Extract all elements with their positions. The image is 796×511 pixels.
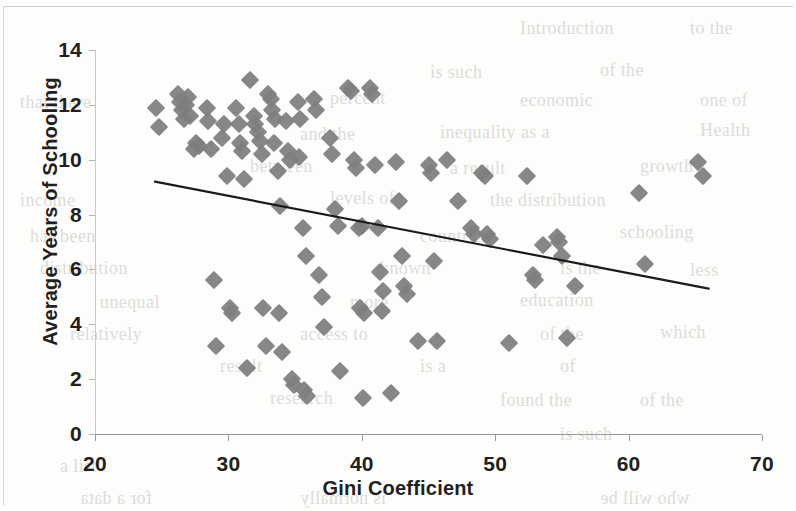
y-axis-title: Average Years of Schooling — [39, 12, 62, 412]
data-point — [369, 219, 387, 237]
x-axis-line — [95, 434, 762, 435]
data-point — [371, 263, 389, 281]
data-point — [373, 301, 391, 319]
data-point — [235, 170, 253, 188]
x-tick-mark — [362, 435, 363, 441]
x-tick-label: 20 — [83, 452, 107, 476]
data-point — [273, 343, 291, 361]
x-tick-label: 30 — [217, 452, 241, 476]
data-point — [323, 145, 341, 163]
data-point — [297, 247, 315, 265]
data-point — [227, 98, 245, 116]
data-point — [289, 93, 307, 111]
data-point — [331, 362, 349, 380]
data-point — [270, 304, 288, 322]
data-point — [409, 332, 427, 350]
data-point — [449, 192, 467, 210]
x-tick-mark — [95, 435, 96, 441]
data-point — [630, 183, 648, 201]
x-tick-label: 70 — [750, 452, 774, 476]
data-point — [354, 389, 372, 407]
scatter-plot-figure: Introductionto theis suchof thethat ther… — [0, 0, 796, 511]
data-point — [294, 219, 312, 237]
x-tick-mark — [495, 435, 496, 441]
data-point — [393, 247, 411, 265]
data-point — [387, 153, 405, 171]
y-tick-label: 0 — [34, 422, 82, 446]
data-point — [218, 167, 236, 185]
x-tick-mark — [762, 435, 763, 441]
data-point — [199, 112, 217, 130]
x-tick-label: 50 — [483, 452, 507, 476]
data-point — [321, 129, 339, 147]
ghost-text: Introduction — [520, 18, 614, 39]
data-point — [390, 192, 408, 210]
data-point — [310, 266, 328, 284]
x-tick-label: 40 — [350, 452, 374, 476]
data-point — [329, 216, 347, 234]
data-point — [499, 334, 517, 352]
data-point — [253, 145, 271, 163]
x-axis-title: Gini Coefficient — [0, 477, 796, 500]
data-point — [150, 118, 168, 136]
data-point — [254, 299, 272, 317]
data-point — [438, 151, 456, 169]
data-point — [207, 337, 225, 355]
data-point — [366, 156, 384, 174]
data-point — [635, 255, 653, 273]
data-point — [558, 329, 576, 347]
data-point — [425, 252, 443, 270]
data-point — [205, 271, 223, 289]
x-tick-mark — [629, 435, 630, 441]
data-point — [566, 277, 584, 295]
data-point — [257, 337, 275, 355]
y-tick-mark — [89, 434, 95, 435]
data-point — [553, 247, 571, 265]
data-point — [241, 71, 259, 89]
data-point — [518, 167, 536, 185]
data-point — [382, 384, 400, 402]
data-point — [238, 359, 256, 377]
ghost-text: to the — [690, 18, 733, 39]
data-point — [147, 98, 165, 116]
data-point — [313, 288, 331, 306]
data-point — [291, 109, 309, 127]
data-point — [315, 318, 333, 336]
data-point — [326, 200, 344, 218]
plot-area — [95, 50, 762, 434]
data-point — [271, 197, 289, 215]
x-tick-label: 60 — [617, 452, 641, 476]
x-tick-mark — [228, 435, 229, 441]
data-point — [427, 332, 445, 350]
data-point — [374, 282, 392, 300]
